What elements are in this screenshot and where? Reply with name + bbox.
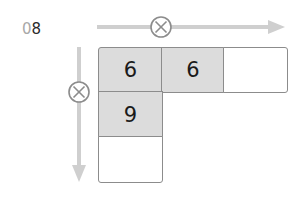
multiply-icon <box>69 82 89 102</box>
multiply-icon <box>151 17 171 37</box>
vertical-arrow <box>72 47 86 182</box>
grid-cell-r2c1: 9 <box>98 91 163 138</box>
horizontal-arrow <box>97 20 285 34</box>
grid-cell-r1c2: 6 <box>161 47 225 93</box>
grid-cell-r1c1: 6 <box>98 47 163 93</box>
grid-cell-r3c1-answer[interactable] <box>98 136 163 183</box>
grid-cell-r1c3-answer[interactable] <box>223 47 288 93</box>
